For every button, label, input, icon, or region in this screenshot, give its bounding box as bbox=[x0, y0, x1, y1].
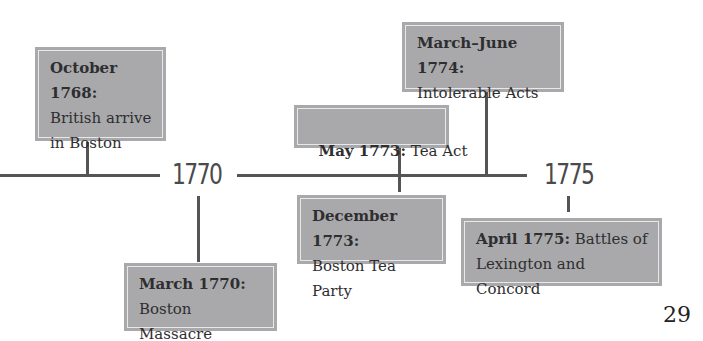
page-number: 29 bbox=[663, 302, 691, 327]
event-description: Battles of bbox=[570, 230, 648, 248]
event-description: Boston Massacre bbox=[139, 297, 264, 341]
event-date: April 1775: bbox=[476, 230, 570, 248]
event-date: March 1770: bbox=[139, 275, 246, 293]
connector-apr-1775 bbox=[567, 196, 570, 212]
event-box-december-1773: December 1773: Boston Tea Party bbox=[297, 195, 446, 264]
event-description: Intolerable Acts bbox=[417, 81, 551, 106]
event-box-april-1775: April 1775: Battles of Lexington and Con… bbox=[461, 218, 662, 286]
event-box-march-june-1774: March–June 1774: Intolerable Acts bbox=[402, 22, 564, 92]
year-marker-1775: 1775 bbox=[544, 158, 593, 191]
timeline-axis-left bbox=[0, 174, 160, 177]
event-date: October 1768: bbox=[50, 59, 117, 102]
event-date: December 1773: bbox=[312, 207, 397, 250]
event-description: Tea Act bbox=[406, 142, 467, 160]
event-box-may-1773: May 1773: Tea Act bbox=[294, 105, 449, 148]
event-box-march-1770: March 1770: Boston Massacre bbox=[124, 263, 277, 331]
event-date: May 1773: bbox=[319, 142, 407, 160]
event-description: British arrive bbox=[50, 106, 153, 131]
connector-mar-1770 bbox=[197, 196, 200, 262]
event-box-october-1768: October 1768: British arrive in Boston bbox=[35, 47, 166, 141]
event-description: Boston Tea Party bbox=[312, 254, 433, 304]
event-date: March–June 1774: bbox=[417, 34, 517, 77]
event-description-cont: in Boston bbox=[50, 131, 153, 156]
event-description-cont: Lexington and Concord bbox=[476, 252, 649, 302]
year-marker-1770: 1770 bbox=[172, 158, 221, 191]
timeline-axis-middle bbox=[237, 174, 527, 177]
